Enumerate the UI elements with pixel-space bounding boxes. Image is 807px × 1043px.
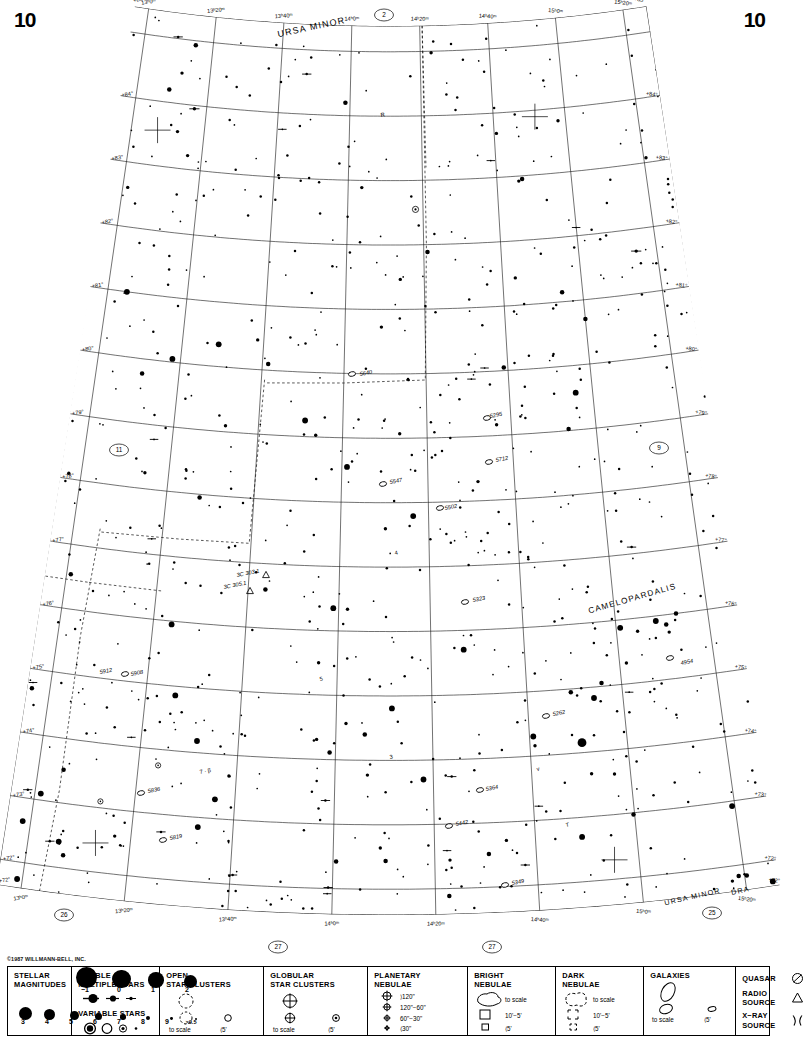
object-label-galaxy: 5640 (359, 369, 373, 377)
dec-label-left: +83° (655, 154, 668, 162)
dec-label-right: +83° (111, 154, 124, 162)
object-label-galaxy: 5908 (130, 669, 144, 677)
dec-label-right: +78° (62, 472, 75, 480)
magnitude-sample: 4 (36, 1006, 58, 1024)
object-label-galaxy: 5547 (389, 477, 403, 485)
object-label-star: 5 (319, 675, 323, 681)
adjacent-chart-number: 27 (274, 943, 282, 950)
object-label-star: 3 (389, 753, 393, 759)
legend-stellar-magnitudes: STELLAR MAGNITUDES −1012 3456789>9.5 (8, 967, 72, 1035)
dec-label-right: +72° (2, 854, 15, 862)
adjacent-chart-number: 26 (60, 911, 68, 918)
svg-text:⟨30": ⟨30" (400, 1025, 411, 1032)
adjacent-chart-number: 25 (708, 909, 716, 916)
constellation-name: CAMELOPARDALIS (587, 582, 677, 616)
ra-label-bottom: 13ʰ40ᵐ (219, 915, 237, 922)
legend-xray-source-title: X−RAY SOURCE (742, 1011, 790, 1029)
legend-bright-nebulae: BRIGHT NEBULAE to scale 10'−5' ⟨5' (468, 967, 556, 1035)
magnitude-label: 3 (21, 1018, 25, 1025)
svg-text:⟩120": ⟩120" (400, 993, 415, 1000)
dec-label-left: +78° (705, 472, 718, 480)
legend-radio-row: RADIO SOURCE (742, 989, 806, 1007)
svg-text:to scale: to scale (273, 1026, 295, 1033)
legend-globular-star-clusters: GLOBULAR STAR CLUSTERS to scale ⟨5' (264, 967, 368, 1035)
legend-planetary-nebulae: PLANETARY NEBULAE ⟩120" 120"−60" 60"−30"… (368, 967, 468, 1035)
svg-text:to scale: to scale (593, 996, 615, 1003)
coordinate-grid (0, 6, 797, 915)
copyright-notice: ©1987 WILLMANN-BELL, INC. (7, 956, 86, 962)
object-label-variable: R (380, 111, 385, 118)
object-label-galaxy: 5712 (495, 455, 509, 463)
object-label-galaxy: 5819 (169, 833, 183, 841)
legend-xray-row: X−RAY SOURCE (742, 1011, 806, 1029)
svg-text:⟨5': ⟨5' (704, 1016, 711, 1023)
svg-text:10'−5': 10'−5' (505, 1012, 522, 1019)
svg-text:120"−60": 120"−60" (400, 1004, 426, 1011)
dec-label-left: +84° (645, 90, 658, 98)
constellation-boundaries (40, 26, 427, 891)
object-label-galaxy: 4954 (680, 658, 694, 666)
adjacent-chart-number: 2 (382, 11, 386, 18)
quasar-icon (790, 972, 806, 985)
legend-point-sources: QUASAR RADIO SOURCE X−RAY SOURCE (736, 967, 807, 1035)
star-chart: 15ʰ20ᵐ15ʰ0ᵐ14ʰ40ᵐ14ʰ20ᵐ14ʰ0ᵐ13ʰ40ᵐ13ʰ20ᵐ… (0, 0, 779, 950)
legend-stellar-magnitudes-title: STELLAR MAGNITUDES (14, 971, 66, 989)
svg-text:to scale: to scale (505, 996, 527, 1003)
dec-label-right: +76° (42, 599, 55, 607)
legend-quasar-row: QUASAR (742, 972, 806, 985)
adjacent-chart-number: 9 (657, 444, 661, 451)
dec-label-right: +73° (12, 790, 25, 798)
object-label-star: 4 (394, 549, 398, 555)
svg-text:⟨5': ⟨5' (220, 1026, 227, 1033)
ra-label-top: 15ʰ0ᵐ (548, 7, 563, 14)
object-label-galaxy: 5912 (99, 667, 113, 675)
dec-label-right: +74° (22, 727, 35, 735)
double-star-symbols (82, 992, 154, 1005)
galaxy-glyphs: to scale ⟨5' (650, 981, 736, 1025)
svg-text:to scale: to scale (169, 1026, 191, 1033)
object-label-galaxy: 5836 (147, 786, 161, 794)
ra-label-top: 14ʰ0ᵐ (344, 15, 359, 21)
legend-galaxies: GALAXIES to scale ⟨5' (644, 967, 736, 1035)
legend-planetary-nebulae-title: PLANETARY NEBULAE (374, 971, 462, 989)
legend-globular-clusters-title: GLOBULAR STAR CLUSTERS (270, 971, 362, 989)
legend-double-stars-title: DOUBLE OR MULTIPLE STARS (78, 971, 154, 989)
object-label-star: 7 · β (199, 767, 212, 775)
dec-label-left: +74° (744, 727, 757, 735)
ra-label-top: 13ʰ20ᵐ (207, 6, 225, 14)
dec-label-left: +73° (754, 790, 767, 798)
legend-dark-nebulae: DARK NEBULAE to scale 10'−5' ⟨5' (556, 967, 644, 1035)
object-label-galaxy: 5295 (489, 411, 503, 419)
double-star-glyphs (82, 992, 152, 1005)
ra-label-top: 13ʰ40ᵐ (275, 12, 293, 19)
dec-label-right: +81° (91, 281, 104, 289)
ra-label-bottom: 15ʰ20ᵐ (738, 895, 756, 903)
magnitude-label: 4 (45, 1018, 49, 1025)
ra-label-bottom: 15ʰ0ᵐ (636, 908, 651, 915)
variable-star-glyphs (82, 1022, 154, 1035)
xray-source-icon (790, 1014, 806, 1027)
dec-label-left: +79° (695, 408, 708, 416)
bright-nebula-glyphs: to scale 10'−5' ⟨5' (474, 990, 554, 1034)
ra-label-bottom: 14ʰ20ᵐ (427, 920, 445, 926)
dec-label-right: +84° (121, 90, 134, 98)
dec-label-left: +80° (685, 345, 698, 353)
ra-label-top: 15ʰ20ᵐ (614, 0, 632, 7)
legend-radio-source-title: RADIO SOURCE (742, 989, 790, 1007)
dec-label-right: +75° (32, 663, 45, 671)
chart-legend: STELLAR MAGNITUDES −1012 3456789>9.5 DOU… (7, 966, 770, 1036)
object-label-variable: v (536, 766, 540, 772)
dec-label-right: +80° (81, 345, 94, 353)
ra-label-bottom: 14ʰ0ᵐ (324, 920, 339, 926)
dec-label-left: +81° (675, 281, 688, 289)
constellation-name: URSA MINOR (277, 15, 347, 39)
magnitude-sample: 3 (12, 1006, 34, 1024)
dec-label-left: +76° (724, 599, 737, 607)
object-label-galaxy: 5442 (455, 819, 469, 827)
svg-text:10'−5': 10'−5' (593, 1012, 610, 1019)
object-label-galaxy: 5364 (485, 784, 499, 792)
ra-label-bottom: 13ʰ0ᵐ (13, 893, 28, 901)
legend-variable-stars-title: VARIABLE STARS (78, 1009, 154, 1018)
svg-text:⟨5': ⟨5' (593, 1025, 600, 1032)
object-label-radio: 3C 303.1 (236, 568, 260, 578)
